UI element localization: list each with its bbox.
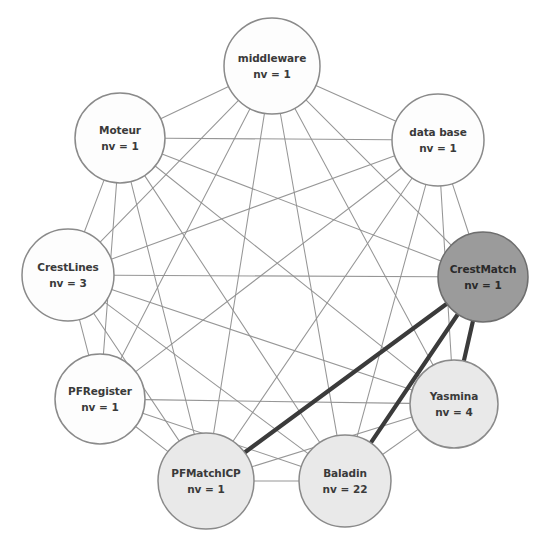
node-circle-database[interactable] bbox=[392, 94, 484, 186]
edge-middleware-database bbox=[316, 86, 396, 122]
edge-crestlines-crestmatch bbox=[114, 275, 438, 277]
node-label-moteur: Moteur bbox=[99, 124, 142, 136]
node-circle-crestlines[interactable] bbox=[22, 229, 114, 321]
node-circle-middleware[interactable] bbox=[224, 18, 320, 114]
edge-database-pfregister bbox=[136, 168, 402, 372]
edge-middleware-pfmatchicp bbox=[214, 113, 265, 433]
edge-moteur-database bbox=[165, 138, 392, 139]
node-pfregister[interactable]: PFRegisternv = 1 bbox=[55, 354, 145, 444]
edge-crestlines-yasmina bbox=[112, 290, 413, 390]
edge-moteur-yasmina bbox=[155, 166, 419, 377]
node-middleware[interactable]: middlewarenv = 1 bbox=[224, 18, 320, 114]
node-database[interactable]: data basenv = 1 bbox=[392, 94, 484, 186]
edge-baladin-yasmina bbox=[383, 429, 418, 454]
dependency-graph: middlewarenv = 1Moteurnv = 1data basenv … bbox=[0, 0, 544, 539]
node-sublabel-yasmina: nv = 4 bbox=[435, 406, 473, 418]
node-sublabel-pfregister: nv = 1 bbox=[81, 401, 119, 413]
node-crestmatch[interactable]: CrestMatchnv = 1 bbox=[438, 232, 528, 322]
edge-pfregister-yasmina bbox=[145, 400, 410, 404]
node-moteur[interactable]: Moteurnv = 1 bbox=[75, 93, 165, 183]
node-label-yasmina: Yasmina bbox=[429, 390, 478, 402]
node-sublabel-baladin: nv = 22 bbox=[322, 483, 367, 495]
node-label-pfmatchicp: PFMatchICP bbox=[171, 467, 241, 479]
node-label-crestlines: CrestLines bbox=[37, 261, 98, 273]
node-pfmatchicp[interactable]: PFMatchICPnv = 1 bbox=[158, 433, 254, 529]
node-sublabel-pfmatchicp: nv = 1 bbox=[187, 483, 225, 495]
node-sublabel-crestmatch: nv = 1 bbox=[464, 279, 502, 291]
edge-moteur-crestlines bbox=[84, 180, 104, 232]
edge-pfregister-pfmatchicp bbox=[136, 427, 168, 452]
node-sublabel-moteur: nv = 1 bbox=[101, 140, 139, 152]
node-circle-pfmatchicp[interactable] bbox=[158, 433, 254, 529]
node-label-crestmatch: CrestMatch bbox=[450, 263, 517, 275]
node-yasmina[interactable]: Yasminanv = 4 bbox=[410, 360, 498, 448]
node-sublabel-middleware: nv = 1 bbox=[253, 68, 291, 80]
node-circle-yasmina[interactable] bbox=[410, 360, 498, 448]
node-label-middleware: middleware bbox=[238, 52, 306, 64]
node-label-pfregister: PFRegister bbox=[68, 385, 133, 397]
node-label-baladin: Baladin bbox=[323, 467, 367, 479]
node-circle-crestmatch[interactable] bbox=[438, 232, 528, 322]
node-circle-moteur[interactable] bbox=[75, 93, 165, 183]
node-crestlines[interactable]: CrestLinesnv = 3 bbox=[22, 229, 114, 321]
node-label-database: data base bbox=[409, 126, 466, 138]
edge-crestlines-pfregister bbox=[79, 320, 88, 356]
node-circle-pfregister[interactable] bbox=[55, 354, 145, 444]
node-sublabel-crestlines: nv = 3 bbox=[49, 277, 87, 289]
edge-strong-crestmatch-yasmina bbox=[464, 321, 473, 361]
node-circle-baladin[interactable] bbox=[299, 435, 391, 527]
edge-middleware-baladin bbox=[280, 113, 337, 435]
node-layer: middlewarenv = 1Moteurnv = 1data basenv … bbox=[22, 18, 528, 529]
node-baladin[interactable]: Baladinnv = 22 bbox=[299, 435, 391, 527]
edge-middleware-moteur bbox=[161, 87, 229, 119]
node-sublabel-database: nv = 1 bbox=[419, 142, 457, 154]
edge-database-crestmatch bbox=[452, 184, 469, 235]
